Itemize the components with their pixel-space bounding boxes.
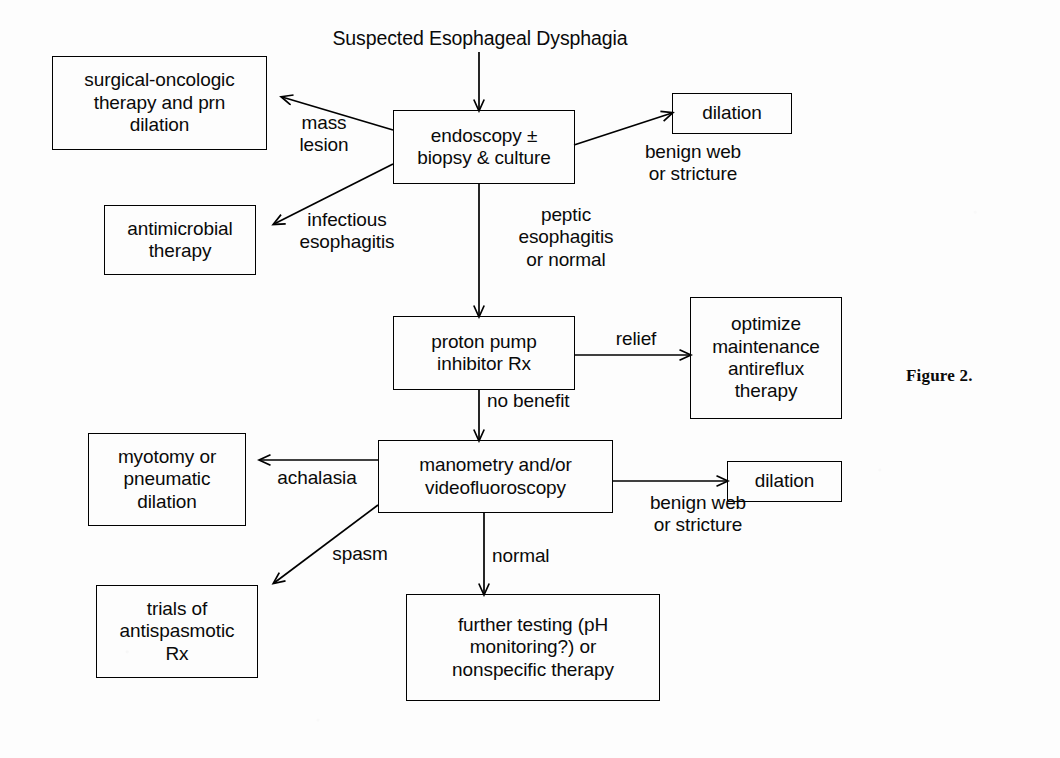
- node-endoscopy[interactable]: endoscopy ± biopsy & culture: [393, 110, 575, 184]
- edge-label-peptic-or-normal: peptic esophagitis or normal: [490, 204, 642, 271]
- node-optimize[interactable]: optimize maintenance antireflux therapy: [690, 297, 842, 419]
- edge-label-spasm: spasm: [318, 543, 402, 565]
- edge-label-relief: relief: [592, 328, 680, 350]
- edge-label-achalasia: achalasia: [258, 467, 376, 489]
- node-surgical-oncologic[interactable]: surgical-oncologic therapy and prn dilat…: [52, 56, 267, 150]
- edge-label-infectious-esophagitis: infectious esophagitis: [272, 209, 422, 254]
- edge-label-no-benefit: no benefit: [487, 390, 607, 412]
- figure-canvas: Suspected Esophageal Dysphagia surgical-…: [0, 0, 1060, 758]
- diagram-title: Suspected Esophageal Dysphagia: [290, 27, 670, 50]
- node-antimicrobial[interactable]: antimicrobial therapy: [104, 205, 256, 275]
- figure-caption: Figure 2.: [906, 366, 973, 386]
- node-ppi[interactable]: proton pump inhibitor Rx: [393, 316, 575, 390]
- edge-label-mass-lesion: mass lesion: [276, 112, 372, 157]
- node-further-testing[interactable]: further testing (pH monitoring?) or nons…: [406, 594, 660, 701]
- node-manometry[interactable]: manometry and/or videofluoroscopy: [378, 440, 613, 513]
- node-antispasmotic[interactable]: trials of antispasmotic Rx: [96, 585, 258, 678]
- edge-label-benign-web-top: benign web or stricture: [608, 141, 778, 186]
- edge-label-benign-web-bottom: benign web or stricture: [614, 492, 782, 537]
- node-myotomy[interactable]: myotomy or pneumatic dilation: [88, 433, 246, 526]
- edge-label-normal: normal: [492, 545, 580, 567]
- node-dilation-top[interactable]: dilation: [672, 93, 792, 134]
